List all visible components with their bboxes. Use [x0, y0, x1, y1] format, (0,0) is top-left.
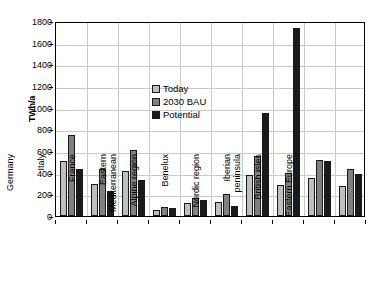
x-tick-label: Germany [5, 154, 15, 224]
bar [355, 174, 363, 216]
x-tick-mark [55, 220, 56, 224]
x-tick-mark [86, 220, 87, 224]
x-tick-mark [272, 220, 273, 224]
y-tick-mark [49, 87, 53, 88]
y-tick-mark [49, 22, 53, 23]
bar-chart: TWh/a 020040060080010001200140016001800 … [0, 0, 384, 297]
y-tick-mark [49, 195, 53, 196]
legend-swatch-today [152, 85, 160, 93]
x-tick-label: Italy [36, 154, 46, 224]
bar [153, 210, 161, 216]
y-tick-label: 800 [6, 125, 52, 135]
bar [215, 202, 223, 216]
x-axis-labels: GermanyItalyFranceEasternMediterraneanAl… [55, 220, 365, 297]
bar [262, 113, 270, 216]
y-tick-mark [49, 217, 53, 218]
bar [91, 184, 99, 216]
x-tick-label: Nordic region [191, 154, 201, 224]
x-tick-mark [365, 220, 366, 224]
bar [60, 161, 68, 216]
x-tick-mark [179, 220, 180, 224]
bar [122, 171, 130, 216]
bar [200, 200, 208, 216]
legend: Today 2030 BAU Potential [152, 82, 206, 121]
legend-label-today: Today [163, 84, 188, 93]
y-tick-label: 1200 [6, 82, 52, 92]
bar [339, 186, 347, 216]
x-tick-mark [148, 220, 149, 224]
legend-item-today: Today [152, 82, 206, 95]
bar [316, 160, 324, 216]
legend-item-2030-bau: 2030 BAU [152, 95, 206, 108]
x-tick-mark [303, 220, 304, 224]
y-tick-mark [49, 174, 53, 175]
bar [293, 28, 301, 217]
y-tick-mark [49, 44, 53, 45]
y-tick-mark [49, 65, 53, 66]
bar [138, 180, 146, 216]
y-tick-mark [49, 152, 53, 153]
y-tick-label: 1600 [6, 39, 52, 49]
bar [76, 169, 84, 216]
y-tick-label: 1400 [6, 60, 52, 70]
bar [169, 208, 177, 216]
legend-label-potential: Potential [163, 110, 200, 119]
x-tick-label: Benelux [160, 154, 170, 224]
bar [347, 169, 355, 216]
y-tick-mark [49, 109, 53, 110]
bar-group [335, 23, 366, 216]
x-tick-mark [210, 220, 211, 224]
x-tick-mark [334, 220, 335, 224]
legend-item-potential: Potential [152, 108, 206, 121]
x-tick-label: Iberianpeninsula [222, 154, 242, 224]
bar [277, 185, 285, 216]
x-tick-label: France [67, 154, 77, 224]
legend-swatch-potential [152, 111, 160, 119]
bar [308, 178, 316, 216]
y-tick-label: 1000 [6, 104, 52, 114]
x-tick-label: EasternMediterranean [98, 154, 118, 224]
x-tick-label: British isles [253, 154, 263, 224]
legend-swatch-2030-bau [152, 98, 160, 106]
y-tick-label: 1800 [6, 17, 52, 27]
bar [184, 203, 192, 216]
bar-group [304, 23, 335, 216]
bar [324, 161, 332, 216]
bar [246, 175, 254, 216]
x-tick-label: Alpine region [129, 154, 139, 224]
legend-label-2030-bau: 2030 BAU [163, 97, 206, 106]
x-tick-label: Eastern Europe [284, 154, 294, 224]
y-tick-mark [49, 130, 53, 131]
